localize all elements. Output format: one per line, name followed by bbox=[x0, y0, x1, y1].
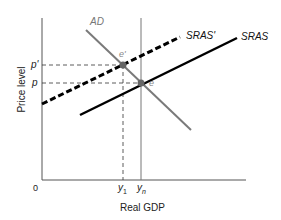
y-axis-label: Price level bbox=[16, 55, 27, 125]
point-e-prime-label: e' bbox=[119, 49, 126, 59]
origin-label: 0 bbox=[33, 183, 38, 193]
yn-label: yn bbox=[137, 182, 146, 195]
ad-curve bbox=[86, 30, 191, 130]
x-axis-label: Real GDP bbox=[120, 202, 165, 213]
sras-prime-curve bbox=[42, 37, 180, 104]
point-e-label: e bbox=[149, 78, 154, 88]
sras-label: SRAS bbox=[241, 31, 268, 42]
y1-label: y1 bbox=[118, 182, 127, 195]
p-prime-label: p' bbox=[31, 59, 38, 70]
point-e bbox=[138, 80, 145, 87]
sras-prime-label: SRAS' bbox=[186, 30, 215, 41]
p-label: p bbox=[32, 77, 38, 88]
point-e-prime bbox=[120, 62, 127, 69]
yn-sub: n bbox=[142, 188, 146, 195]
y1-sub: 1 bbox=[123, 188, 127, 195]
ad-label: AD bbox=[90, 16, 104, 27]
sras-curve bbox=[80, 38, 237, 115]
